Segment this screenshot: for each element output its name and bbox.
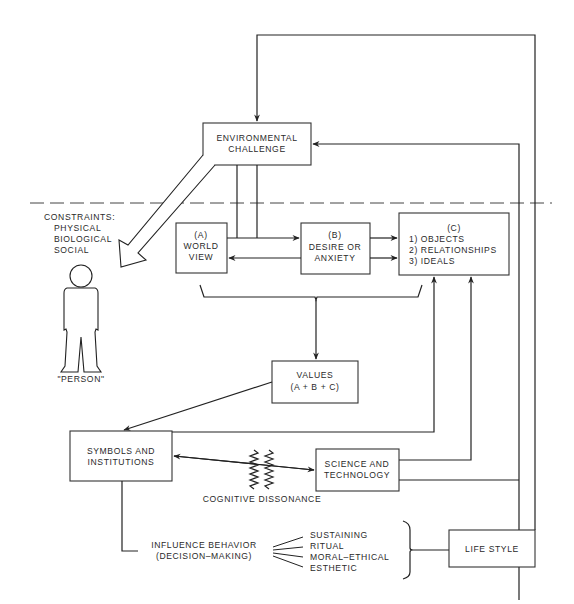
values-formula: (A + B + C) [290,382,339,392]
life-style-box: LIFE STYLE [449,530,535,567]
influence-types-brace [403,521,413,579]
constraint-biological: BIOLOGICAL [54,234,112,244]
person-icon [61,265,101,372]
box-a-label: (A) [194,230,207,240]
box-c-relationships: 2) RELATIONSHIPS [409,245,497,255]
box-b-line2: DESIRE OR [309,242,362,252]
dissonance-zigzag-2 [265,450,273,489]
person-label: "PERSON" [57,374,104,384]
symbols-to-science-arrow [174,456,314,470]
science-technology-box: SCIENCE AND TECHNOLOGY [316,449,399,491]
values-to-symbols-arrow [124,382,272,430]
constraint-social: SOCIAL [54,245,89,255]
symbols-line1: SYMBOLS AND [87,446,155,456]
life-style-label: LIFE STYLE [465,544,519,554]
influence-label-line2: (DECISION–MAKING) [156,551,252,561]
objects-relationships-ideals-box: (C) 1) OBJECTS 2) RELATIONSHIPS 3) IDEAL… [399,213,509,275]
symbols-line2: INSTITUTIONS [88,457,155,467]
science-line1: SCIENCE AND [325,459,390,469]
box-c-objects: 1) OBJECTS [409,234,465,244]
influence-type-esthetic: ESTHETIC [310,563,357,573]
symbols-institutions-box: SYMBOLS AND INSTITUTIONS [70,431,172,481]
abc-bracket [200,285,422,300]
symbols-to-influence-line [122,481,138,551]
env-label-line1: ENVIRONMENTAL [216,133,297,143]
influence-type-ritual: RITUAL [310,541,344,551]
constraints-label: CONSTRAINTS: PHYSICAL BIOLOGICAL SOCIAL [44,212,115,255]
science-line2: TECHNOLOGY [324,470,390,480]
constraints-title: CONSTRAINTS: [44,212,115,222]
desire-anxiety-box: (B) DESIRE OR ANXIETY [301,223,370,274]
box-c-label: (C) [447,223,461,233]
influence-fan-lines [273,537,303,567]
world-view-box: (A) WORLD VIEW [176,223,227,273]
environmental-challenge-box: ENVIRONMENTAL CHALLENGE [203,123,311,165]
influence-type-moral-ethical: MORAL–ETHICAL [310,552,389,562]
influence-type-sustaining: SUSTAINING [310,530,368,540]
dissonance-zigzag-1 [250,450,258,489]
box-a-line2: WORLD [184,241,219,251]
values-box: VALUES (A + B + C) [272,361,358,403]
box-b-line3: ANXIETY [315,253,356,263]
box-a-line3: VIEW [189,252,214,262]
env-label-line2: CHALLENGE [228,144,285,154]
cognitive-dissonance-label: COGNITIVE DISSONANCE [203,494,321,504]
values-model-diagram: ENVIRONMENTAL CHALLENGE CONSTRAINTS: PHY… [0,0,574,604]
influence-label-line1: INFLUENCE BEHAVIOR [151,540,257,550]
box-c-ideals: 3) IDEALS [409,256,455,266]
constraint-physical: PHYSICAL [54,223,101,233]
symbols-to-c-loop [172,277,434,432]
values-label: VALUES [297,370,334,380]
box-b-label: (B) [328,230,341,240]
